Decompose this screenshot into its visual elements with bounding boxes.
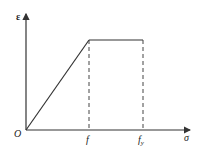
fy-subscript: y <box>140 139 145 147</box>
x-tick-label-fy: fy <box>138 134 145 147</box>
y-axis-label: ε <box>16 11 21 22</box>
x-tick-label-f: f <box>86 134 90 145</box>
diagram-canvas: ε O f fy σ <box>0 0 200 152</box>
origin-label: O <box>14 128 21 139</box>
x-axis-label: σ <box>184 132 190 143</box>
rising-segment <box>26 40 89 130</box>
